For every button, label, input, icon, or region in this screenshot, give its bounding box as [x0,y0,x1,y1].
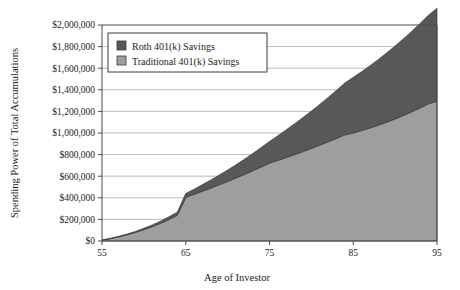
x-tick-label: 85 [349,248,359,258]
legend-label-traditional: Traditional 401(k) Savings [132,56,240,68]
legend-swatch-traditional [117,56,126,65]
x-tick-label: 55 [97,248,107,258]
y-tick-label: $0 [86,236,96,246]
legend-swatch-roth [117,41,126,50]
y-tick-label: $600,000 [59,172,95,182]
y-tick-label: $200,000 [59,215,95,225]
legend-label-roth: Roth 401(k) Savings [132,41,215,53]
x-tick-label: 65 [181,248,191,258]
y-tick-label: $2,000,000 [52,20,95,30]
area-chart: $0$200,000$400,000$600,000$800,000$1,000… [0,0,460,290]
chart-legend: Roth 401(k) Savings Traditional 401(k) S… [108,33,267,72]
x-tick-label: 75 [265,248,275,258]
y-tick-label: $1,400,000 [52,85,95,95]
y-tick-label: $800,000 [59,150,95,160]
x-tick-label: 95 [432,248,442,258]
y-tick-label: $400,000 [59,193,95,203]
y-axis-title: Spending Power of Total Accumulations [9,48,20,218]
x-axis-title: Age of Investor [204,272,270,283]
chart-container: $0$200,000$400,000$600,000$800,000$1,000… [0,0,460,290]
y-tick-label: $1,600,000 [52,64,95,74]
y-tick-label: $1,800,000 [52,42,95,52]
y-tick-label: $1,200,000 [52,107,95,117]
y-tick-label: $1,000,000 [52,128,95,138]
